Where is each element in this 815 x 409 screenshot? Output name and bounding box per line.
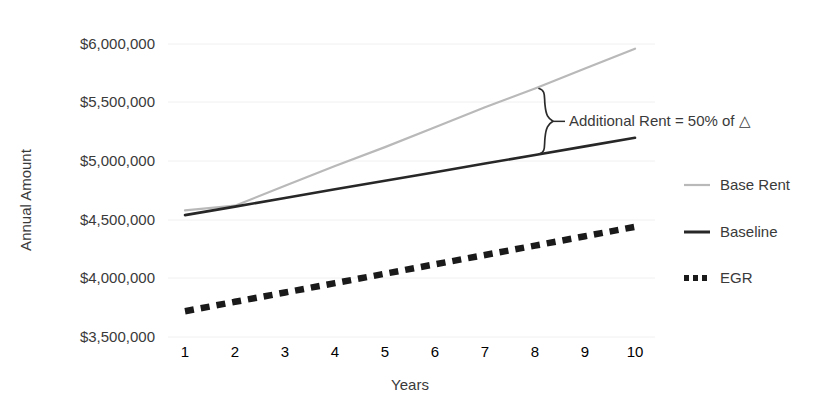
curly-brace-icon [539, 89, 553, 155]
chart-screen: $6,000,000 $5,500,000 $5,000,000 $4,500,… [0, 0, 815, 409]
x-tick-label: 8 [531, 343, 539, 360]
x-axis-title: Years [391, 376, 429, 393]
y-tick-label: $5,000,000 [80, 152, 155, 169]
x-tick-label: 10 [627, 343, 644, 360]
x-tick-label: 5 [381, 343, 389, 360]
annotation-label: Additional Rent = 50% of △ [569, 112, 751, 129]
x-tick-label: 4 [331, 343, 339, 360]
legend-item-baseline[interactable]: Baseline [684, 223, 778, 240]
x-axis-tick-labels: 1 2 3 4 5 6 7 8 9 10 [181, 343, 644, 360]
x-tick-label: 6 [431, 343, 439, 360]
gridlines [168, 44, 655, 337]
x-tick-label: 2 [231, 343, 239, 360]
series-line-baseline [185, 138, 635, 215]
legend-item-base-rent[interactable]: Base Rent [684, 176, 791, 193]
legend-label: Baseline [720, 223, 778, 240]
series-layer [185, 49, 635, 312]
y-tick-label: $4,500,000 [80, 211, 155, 228]
x-tick-label: 7 [481, 343, 489, 360]
legend-item-egr[interactable]: EGR [684, 269, 753, 286]
y-axis-title: Annual Amount [17, 148, 34, 251]
x-tick-label: 1 [181, 343, 189, 360]
legend-label: EGR [720, 269, 753, 286]
additional-rent-annotation: Additional Rent = 50% of △ [539, 89, 751, 155]
series-line-egr [185, 227, 635, 311]
y-axis-tick-labels: $6,000,000 $5,500,000 $5,000,000 $4,500,… [80, 35, 155, 345]
x-tick-label: 9 [581, 343, 589, 360]
legend: Base Rent Baseline EGR [684, 176, 791, 286]
line-chart: $6,000,000 $5,500,000 $5,000,000 $4,500,… [0, 0, 815, 409]
legend-label: Base Rent [720, 176, 791, 193]
y-tick-label: $4,000,000 [80, 269, 155, 286]
series-line-base-rent [185, 49, 635, 211]
y-tick-label: $6,000,000 [80, 35, 155, 52]
y-tick-label: $5,500,000 [80, 93, 155, 110]
y-tick-label: $3,500,000 [80, 328, 155, 345]
x-tick-label: 3 [281, 343, 289, 360]
